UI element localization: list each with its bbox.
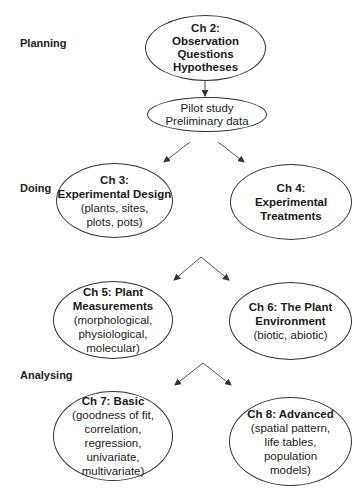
node-ch3: Ch 3: Experimental Design (plants, sites…	[56, 163, 173, 238]
node-ch5: Ch 5: Plant Measurements (morphological,…	[53, 281, 173, 359]
node-ch7-title: Ch 7: Basic	[82, 394, 145, 408]
node-pilot-study: Pilot study Preliminary data	[147, 97, 267, 132]
phase-label-analysing: Analysing	[20, 369, 73, 381]
node-ch4: Ch 4: Experimental Treatments	[230, 164, 352, 240]
node-ch2-title: Ch 2: Observation Questions Hypotheses	[172, 22, 239, 74]
node-ch8-title: Ch 8: Advanced	[247, 407, 333, 421]
arrow-pilot-to-ch4	[218, 142, 244, 162]
node-ch8: Ch 8: Advanced (spatial pattern, life ta…	[229, 397, 352, 486]
arrow-to-ch7	[175, 363, 203, 385]
node-ch6-title: Ch 6: The Plant Environment	[249, 300, 333, 328]
node-ch8-sub: (spatial pattern, life tables, populatio…	[251, 421, 330, 477]
arrow-to-ch8	[203, 363, 231, 385]
node-ch6-sub: (biotic, abiotic)	[253, 328, 327, 342]
arrow-to-ch6	[201, 257, 229, 280]
node-ch7-sub: (goodness of fit, correlation, regressio…	[72, 408, 154, 478]
phase-label-doing: Doing	[20, 182, 51, 194]
node-ch4-title: Ch 4: Experimental Treatments	[255, 181, 327, 223]
node-ch5-title: Ch 5: Plant Measurements	[73, 285, 154, 313]
node-ch3-sub: (plants, sites, plots, pots)	[81, 201, 149, 229]
node-ch5-sub: (morphological, physiological, molecular…	[74, 313, 153, 355]
node-ch3-title: Ch 3: Experimental Design	[58, 173, 172, 201]
arrow-pilot-to-ch3	[164, 142, 190, 162]
node-ch2: Ch 2: Observation Questions Hypotheses	[145, 15, 266, 81]
phase-label-planning: Planning	[20, 37, 66, 49]
node-ch6: Ch 6: The Plant Environment (biotic, abi…	[229, 282, 352, 360]
arrow-to-ch5	[174, 257, 201, 280]
node-ch7: Ch 7: Basic (goodness of fit, correlatio…	[53, 391, 173, 481]
node-pilot-text: Pilot study Preliminary data	[165, 102, 248, 128]
